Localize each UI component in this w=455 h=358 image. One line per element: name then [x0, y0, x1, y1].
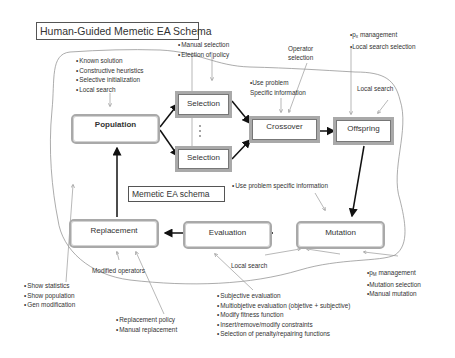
note-constructive-heuristics: Constructive heuristics — [76, 66, 144, 76]
note-manual-selection: Manual selection — [178, 40, 229, 50]
crossover-prob-notes: •px management •Local search selection — [350, 30, 415, 51]
replacement-notes: Replacement policy Manual replacement — [116, 315, 177, 334]
mutation-info-note: Use problem specific information — [232, 181, 328, 191]
note-show-population: Show population — [24, 291, 75, 301]
note-gen-modification: Gen modification — [24, 300, 75, 310]
offspring-local-search-note: Local search — [357, 84, 393, 93]
mutation-node: Mutation — [296, 221, 385, 249]
mutation-notes: •pM management •Mutation selection •Manu… — [367, 268, 421, 299]
selection-notes: Manual selection Election of policy — [178, 40, 229, 59]
note-replacement-policy: Replacement policy — [116, 315, 177, 325]
operator-selection-line2: selection — [288, 53, 313, 62]
replacement-label: Replacement — [90, 226, 137, 235]
note-constraints: Insert/remove/modify constraints — [217, 320, 350, 330]
note-manual-replacement: Manual replacement — [116, 325, 177, 335]
note-specific-information: Specific information — [250, 88, 306, 98]
crossover-node: Crossover — [249, 116, 320, 143]
selection-bottom-node: Selection — [175, 146, 232, 172]
selection-top-label: Selection — [187, 99, 220, 108]
evaluation-label: Evaluation — [209, 228, 246, 237]
inner-schema-title: Memetic EA schema — [128, 186, 225, 202]
note-multiobjective-evaluation: Multiobjetive evaluation (objetive + sub… — [217, 301, 350, 311]
note-penalty-repairing: Selection of penalty/repairing functions — [217, 329, 350, 339]
note-local-search-selection: •Local search selection — [350, 42, 415, 52]
population-init-notes: Known solution Constructive heuristics S… — [76, 56, 144, 94]
population-label: Population — [95, 120, 136, 129]
note-mutation-selection: •Mutation selection — [367, 280, 421, 290]
modified-operators-note: Modified operators — [92, 266, 145, 275]
population-view-notes: Show statistics Show population Gen modi… — [24, 281, 75, 310]
crossover-label: Crossover — [266, 122, 302, 131]
note-show-statistics: Show statistics — [24, 281, 75, 291]
selection-bottom-label: Selection — [187, 153, 220, 162]
mutation-label: Mutation — [325, 228, 356, 237]
note-known-solution: Known solution — [76, 56, 144, 66]
offspring-label: Offspring — [347, 124, 379, 133]
note-pm-management: •pM management — [367, 268, 421, 280]
selection-top-node: Selection — [175, 91, 232, 118]
evaluation-notes: Subjective evaluation Multiobjetive eval… — [217, 291, 350, 339]
outer-schema-title: Human-Guided Memetic EA Schema — [36, 22, 199, 40]
operator-selection-line1: Operator — [288, 44, 313, 53]
note-use-problem: Use problem — [252, 79, 288, 86]
note-local-search: Local search — [76, 85, 144, 95]
note-manual-mutation: •Manual mutation — [367, 289, 421, 299]
evaluation-node: Evaluation — [183, 221, 272, 249]
operator-selection-note: Operator selection — [288, 44, 313, 62]
note-selective-initialization: Selective initialization — [76, 75, 144, 85]
replacement-node: Replacement — [69, 219, 159, 248]
population-node: Population — [71, 114, 160, 144]
crossover-info-note: •Use problem Specific information — [250, 78, 306, 97]
note-subjective-evaluation: Subjective evaluation — [217, 291, 350, 301]
note-modify-fitness-function: Modify fitness function — [217, 310, 350, 320]
bottom-local-search-note: Local search — [231, 261, 267, 270]
note-election-of-policy: Election of policy — [178, 50, 229, 60]
note-px-management: •px management — [350, 30, 415, 42]
note-use-problem-specific-information: Use problem specific information — [232, 181, 328, 191]
offspring-node: Offspring — [333, 117, 394, 145]
